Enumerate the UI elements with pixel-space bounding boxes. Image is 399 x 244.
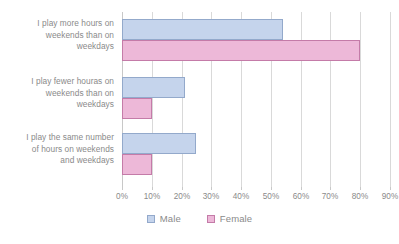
tick-mark-60% bbox=[301, 187, 302, 190]
category-axis: I play more hours on weekends than on we… bbox=[0, 12, 118, 187]
tick-mark-10% bbox=[152, 187, 153, 190]
tick-label-90%: 90% bbox=[375, 192, 399, 201]
category-label-0-line-2: weekdays bbox=[0, 41, 114, 53]
tick-label-80%: 80% bbox=[345, 192, 375, 201]
legend-item-female[interactable]: Female bbox=[207, 213, 252, 224]
bars-layer bbox=[122, 12, 390, 187]
bar-chart: I play more hours on weekends than on we… bbox=[0, 0, 399, 244]
chart-legend: Male Female bbox=[0, 213, 399, 224]
tick-mark-80% bbox=[360, 187, 361, 190]
bar-female-0[interactable] bbox=[122, 40, 360, 61]
category-label-0: I play more hours on weekends than on we… bbox=[0, 18, 114, 53]
category-label-2-line-0: I play the same number bbox=[0, 132, 114, 144]
category-label-1-line-2: weekdays bbox=[0, 99, 114, 111]
legend-label-male: Male bbox=[160, 213, 181, 224]
legend-swatch-female-icon bbox=[207, 215, 215, 223]
category-label-2-line-2: and weekdays bbox=[0, 155, 114, 167]
bar-male-2[interactable] bbox=[122, 133, 196, 154]
category-label-2: I play the same number of hours on weeke… bbox=[0, 132, 114, 167]
bar-female-2[interactable] bbox=[122, 154, 152, 175]
category-label-2-line-1: of hours on weekends bbox=[0, 144, 114, 156]
tick-mark-70% bbox=[330, 187, 331, 190]
tick-label-10%: 10% bbox=[137, 192, 167, 201]
tick-mark-40% bbox=[241, 187, 242, 190]
gridline-90% bbox=[390, 12, 391, 187]
tick-mark-20% bbox=[182, 187, 183, 190]
tick-label-40%: 40% bbox=[226, 192, 256, 201]
bar-male-1[interactable] bbox=[122, 77, 185, 98]
tick-label-0%: 0% bbox=[107, 192, 137, 201]
category-label-1: I play fewer houras on weekends than on … bbox=[0, 76, 114, 111]
category-label-0-line-1: weekends than on bbox=[0, 30, 114, 42]
legend-swatch-male-icon bbox=[147, 215, 155, 223]
tick-label-60%: 60% bbox=[286, 192, 316, 201]
tick-label-50%: 50% bbox=[256, 192, 286, 201]
bar-male-0[interactable] bbox=[122, 19, 283, 40]
legend-item-male[interactable]: Male bbox=[147, 213, 181, 224]
category-label-1-line-0: I play fewer houras on bbox=[0, 76, 114, 88]
tick-mark-50% bbox=[271, 187, 272, 190]
category-label-0-line-0: I play more hours on bbox=[0, 18, 114, 30]
legend-label-female: Female bbox=[220, 213, 252, 224]
bar-female-1[interactable] bbox=[122, 98, 152, 119]
tick-mark-30% bbox=[211, 187, 212, 190]
tick-mark-90% bbox=[390, 187, 391, 190]
tick-mark-0% bbox=[122, 187, 123, 190]
tick-label-70%: 70% bbox=[315, 192, 345, 201]
value-axis: 0%10%20%30%40%50%60%70%80%90% bbox=[122, 187, 390, 205]
plot-area bbox=[122, 12, 390, 187]
category-label-1-line-1: weekends than on bbox=[0, 88, 114, 100]
tick-label-20%: 20% bbox=[167, 192, 197, 201]
tick-label-30%: 30% bbox=[196, 192, 226, 201]
